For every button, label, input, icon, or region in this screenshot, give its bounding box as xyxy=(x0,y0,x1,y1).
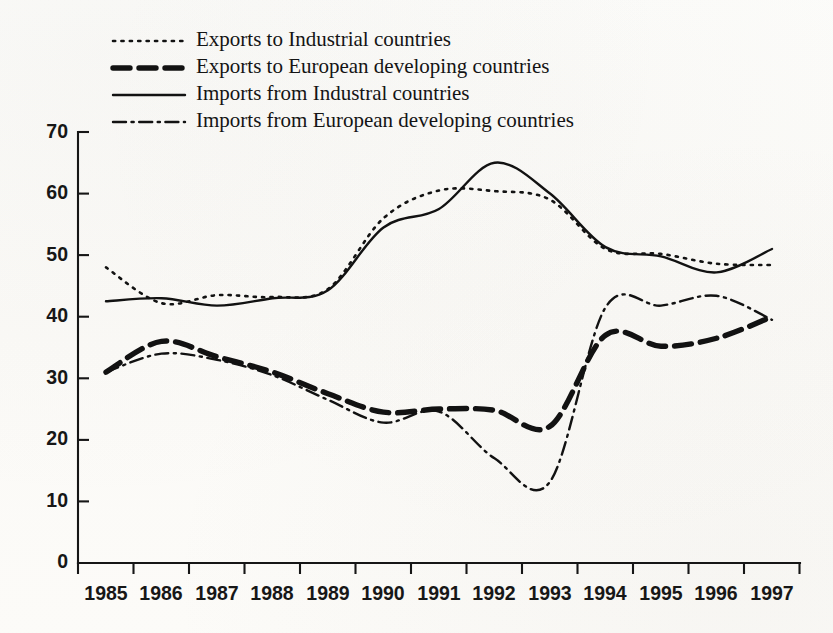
x-axis-label-1987: 1987 xyxy=(195,582,238,604)
chart-series-group xyxy=(106,163,772,491)
x-axis-label-1996: 1996 xyxy=(694,582,738,604)
chart-canvas: Exports to Industrial countries Exports … xyxy=(0,0,833,633)
y-axis-label-60: 60 xyxy=(46,181,68,203)
x-axis-label-1989: 1989 xyxy=(306,582,350,604)
legend-item-imports-industrial[interactable]: Imports from Industral countries xyxy=(113,81,470,105)
x-axis-label-1995: 1995 xyxy=(639,582,683,604)
x-axis-label-1991: 1991 xyxy=(417,582,461,604)
y-axis-label-10: 10 xyxy=(46,489,68,511)
y-axis-label-70: 70 xyxy=(46,120,68,142)
x-axis-label-1993: 1993 xyxy=(528,582,572,604)
series-line-exports-industrial[interactable] xyxy=(106,188,772,304)
x-axis-ticks xyxy=(78,563,800,574)
y-axis-ticks xyxy=(78,132,89,501)
chart-axes: 70 60 50 40 30 20 10 0 xyxy=(46,120,800,604)
y-axis-label-30: 30 xyxy=(46,366,68,388)
legend-label-imports-industrial: Imports from Industral countries xyxy=(196,81,470,105)
legend-item-imports-european-developing[interactable]: Imports from European developing countri… xyxy=(113,108,574,132)
x-axis-labels: 1985 1986 1987 1988 1989 1990 1991 1992 … xyxy=(84,582,793,604)
legend-label-exports-european-developing: Exports to European developing countries xyxy=(196,54,549,78)
x-axis-label-1992: 1992 xyxy=(472,582,516,604)
chart-legend: Exports to Industrial countries Exports … xyxy=(113,27,574,132)
y-axis-labels: 70 60 50 40 30 20 10 0 xyxy=(46,120,68,572)
x-axis-label-1994: 1994 xyxy=(583,582,627,604)
y-axis-label-0: 0 xyxy=(57,550,68,572)
x-axis-label-1985: 1985 xyxy=(84,582,128,604)
y-axis-label-40: 40 xyxy=(46,304,68,326)
x-axis-label-1990: 1990 xyxy=(361,582,405,604)
series-line-imports-european-developing[interactable] xyxy=(106,294,772,490)
x-axis-label-1997: 1997 xyxy=(750,582,793,604)
legend-item-exports-industrial[interactable]: Exports to Industrial countries xyxy=(113,27,451,51)
legend-item-exports-european-developing[interactable]: Exports to European developing countries xyxy=(113,54,549,78)
legend-label-exports-industrial: Exports to Industrial countries xyxy=(196,27,451,51)
y-axis-label-50: 50 xyxy=(46,243,68,265)
line-chart-figure: Exports to Industrial countries Exports … xyxy=(0,0,833,633)
legend-label-imports-european-developing: Imports from European developing countri… xyxy=(196,108,574,132)
series-line-imports-industrial[interactable] xyxy=(106,163,772,306)
y-axis-label-20: 20 xyxy=(46,427,68,449)
x-axis-label-1986: 1986 xyxy=(139,582,183,604)
x-axis-label-1988: 1988 xyxy=(250,582,294,604)
